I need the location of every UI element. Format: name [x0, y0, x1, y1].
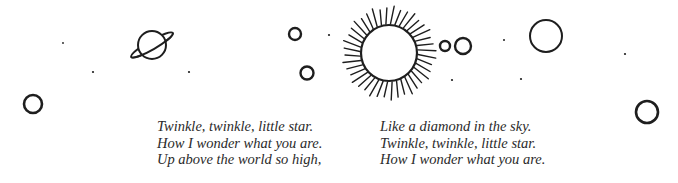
poem-line: Twinkle, twinkle, little star. — [380, 135, 545, 152]
sun-ray — [380, 10, 381, 25]
sun-ray — [401, 79, 405, 94]
poem-line: How I wonder what you are. — [380, 151, 545, 168]
star-dot-icon — [328, 34, 330, 36]
sun-ray — [418, 50, 436, 51]
star-dot-icon — [188, 71, 190, 73]
sun-ray — [418, 54, 436, 58]
sun-ray — [417, 44, 433, 46]
star-circle-icon — [289, 28, 301, 40]
sun-ray — [377, 81, 383, 96]
star-dot-icon — [62, 42, 64, 44]
sun-ray — [415, 37, 430, 41]
poem-line: Like a diamond in the sky. — [380, 118, 545, 135]
sun-ray — [391, 82, 392, 100]
sun-ray — [347, 65, 363, 69]
star-circle-icon — [301, 67, 314, 80]
poem-right-stanza: Like a diamond in the sky. Twinkle, twin… — [380, 118, 545, 168]
sun-ray — [344, 48, 360, 51]
saturn-planet-icon — [129, 29, 175, 61]
poem-line: Twinkle, twinkle, little star. — [157, 118, 322, 135]
sun-ray — [390, 6, 394, 24]
sun-ray — [343, 61, 361, 63]
sun-ray — [386, 8, 387, 24]
sun-icon — [343, 6, 436, 100]
poem-line: How I wonder what you are. — [157, 135, 322, 152]
sun-ray — [344, 41, 361, 47]
sun-ray — [417, 59, 431, 65]
star-dot-icon — [503, 39, 505, 41]
star-circle-icon — [636, 101, 658, 123]
sun-ray — [397, 81, 399, 97]
star-dot-icon — [624, 53, 626, 55]
star-circle-icon — [530, 20, 562, 52]
sun-ray — [384, 82, 387, 97]
star-circle-icon — [24, 95, 42, 113]
night-sky-drawing — [0, 0, 678, 183]
sun-ray — [367, 14, 373, 29]
star-dot-icon — [520, 78, 522, 80]
sun-ray — [395, 11, 401, 25]
twinkle-star-illustration: Twinkle, twinkle, little star. How I won… — [0, 0, 678, 183]
sun-ray — [351, 69, 365, 75]
star-dot-icon — [451, 79, 453, 81]
poem-line: Up above the world so high, — [157, 151, 322, 168]
sun-ray — [345, 55, 360, 56]
sun-disc — [361, 25, 417, 81]
star-dot-icon — [92, 71, 94, 73]
star-circle-icon — [455, 38, 471, 54]
star-circle-icon — [440, 41, 450, 51]
sun-ray — [361, 19, 369, 32]
poem-left-stanza: Twinkle, twinkle, little star. How I won… — [157, 118, 322, 168]
star-circles — [24, 20, 658, 123]
sun-ray — [372, 9, 377, 27]
